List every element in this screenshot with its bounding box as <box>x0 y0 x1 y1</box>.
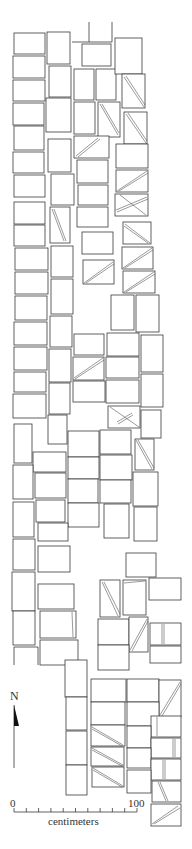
tablet-block <box>33 452 66 472</box>
tablet-block <box>47 32 70 64</box>
tablet-block <box>13 152 44 173</box>
tablet-block <box>50 316 72 347</box>
tablet-block <box>13 394 46 418</box>
tablet-block <box>123 580 146 615</box>
tablet-block <box>15 296 47 320</box>
tablet-block <box>98 645 129 670</box>
tablet-block <box>115 38 142 74</box>
wall-stubs <box>72 22 112 42</box>
tablet-block <box>13 502 34 537</box>
tablet-block <box>38 546 70 572</box>
tablet-block <box>74 334 104 355</box>
tablet-block <box>40 611 76 638</box>
tablet-block <box>49 66 71 97</box>
tablet-block <box>68 431 99 457</box>
tablet-block <box>14 322 47 345</box>
tablet-block <box>73 381 105 402</box>
tablet-block <box>82 44 111 66</box>
tablet-block <box>46 98 71 132</box>
tablet-block <box>127 770 151 793</box>
scale-bar <box>14 808 137 812</box>
tablet-block <box>48 415 67 444</box>
tablet-block <box>13 103 44 125</box>
tablet-block <box>12 572 35 611</box>
tablet-block <box>134 507 157 541</box>
tablet-block <box>14 202 45 224</box>
tablet-block <box>13 611 35 645</box>
tablet-block <box>13 80 45 101</box>
tablet-block <box>77 207 108 227</box>
scale-start-label: 0 <box>10 798 16 809</box>
scale-end-label: 100 <box>128 798 145 809</box>
tablet-block <box>51 246 73 277</box>
tablet-block <box>106 380 139 403</box>
tablet-block <box>14 347 47 370</box>
tablet-block <box>136 295 159 332</box>
tablet-block <box>151 759 181 780</box>
site-plan-drawing <box>0 0 192 849</box>
tablet-block <box>13 539 35 570</box>
tablet-block <box>127 679 159 702</box>
tablet-block <box>14 175 45 197</box>
tablet-block <box>68 457 99 479</box>
tablet-block <box>100 480 131 503</box>
tablet-block <box>38 523 68 541</box>
tablet-block <box>38 584 74 609</box>
tablet-blocks <box>12 32 181 826</box>
tablet-block <box>150 623 181 645</box>
tablet-block <box>13 465 33 499</box>
tablet-block <box>91 725 125 746</box>
tablet-block <box>96 69 116 100</box>
tablet-block <box>107 333 139 356</box>
tablet-block <box>151 716 181 737</box>
tablet-block <box>104 504 129 538</box>
tablet-block <box>14 225 45 246</box>
tablet-block <box>91 679 126 702</box>
tablet-block <box>51 174 74 205</box>
tablet-block <box>141 410 161 438</box>
tablet-block <box>127 726 151 748</box>
tablet-block <box>15 248 48 270</box>
tablet-block <box>14 372 46 392</box>
scale-unit-label: centimeters <box>48 816 99 827</box>
tablet-block <box>126 553 156 577</box>
tablet-block <box>77 160 108 183</box>
tablet-block <box>82 232 113 254</box>
tablet-block <box>74 69 94 100</box>
tablet-block <box>78 185 108 205</box>
tablet-block <box>35 473 66 498</box>
tablet-block <box>66 731 87 765</box>
tablet-block <box>51 279 73 314</box>
tablet-block <box>68 503 99 527</box>
tablet-block <box>141 374 163 407</box>
tablet-block <box>14 33 45 54</box>
north-label: N <box>10 690 19 702</box>
tablet-block <box>100 430 131 454</box>
tablet-block <box>91 702 125 725</box>
tablet-block <box>98 619 129 645</box>
tablet-block <box>106 357 139 378</box>
tablet-block <box>14 424 32 463</box>
tablet-block <box>66 765 87 795</box>
tablet-block <box>150 646 181 663</box>
tablet-block <box>15 272 48 294</box>
tablet-block <box>14 126 44 150</box>
tablet-block <box>116 144 148 168</box>
tablet-block <box>68 479 98 503</box>
tablet-block <box>65 660 87 697</box>
north-arrow-icon <box>14 705 19 768</box>
tablet-block <box>152 781 181 802</box>
tablet-block <box>13 56 45 78</box>
tablet-block <box>74 102 95 134</box>
tablet-block <box>149 578 181 600</box>
tablet-block <box>66 697 87 730</box>
tablet-block <box>36 500 65 522</box>
tablet-block <box>14 647 38 665</box>
tablet-block <box>127 748 151 768</box>
tablet-block <box>100 455 132 480</box>
tablet-block <box>111 295 134 330</box>
tablet-block <box>151 738 181 758</box>
tablet-block <box>141 335 163 372</box>
tablet-block <box>49 383 70 414</box>
tablet-block <box>74 136 109 158</box>
